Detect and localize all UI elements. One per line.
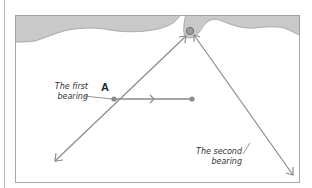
second-bearing-label: The second bearing [192,147,242,167]
first-bearing-label: The first bearing [44,82,88,102]
first-bearing-label-line1: The first [44,82,88,92]
second-bearing-label-line2: bearing [192,157,242,167]
point-a-dot [111,96,116,101]
course-end-dot [189,96,194,101]
first-bearing-label-line2: bearing [44,92,88,102]
point-a-label: A [101,81,109,93]
landmark-icon [186,27,193,34]
second-bearing-label-line1: The second [192,147,242,157]
